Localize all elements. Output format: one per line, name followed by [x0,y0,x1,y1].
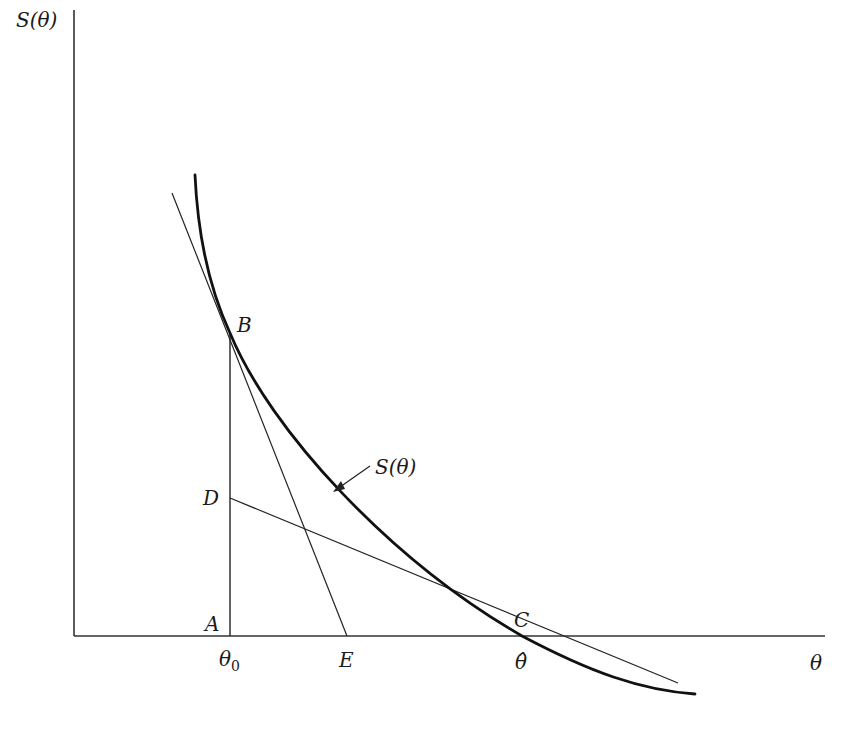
x-tick-theta-hat: θ̂ [515,650,527,674]
tangent-line-BE [172,193,347,636]
point-label-B: B [236,313,252,337]
point-label-A: A [203,612,219,636]
point-label-D: D [202,486,219,510]
curve-label: S(θ) [375,455,416,479]
y-axis-label: S(θ) [16,8,57,32]
point-label-C: C [514,608,529,632]
curve-label-arrow [340,466,370,487]
x-tick-theta0: θ0 [219,647,240,674]
diagram-canvas: S(θ) θ S(θ) B D A C θ0 E θ̂ [0,0,857,744]
curve-S-theta [195,175,695,694]
x-tick-E: E [338,648,354,672]
x-axis-label: θ [810,651,822,675]
